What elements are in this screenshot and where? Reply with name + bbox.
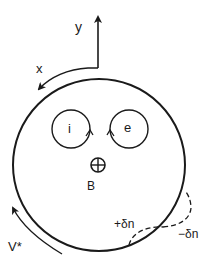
ion-orbit-circle [52,110,90,148]
diagram-svg [0,0,205,269]
magnetic-field-into-page-icon [91,158,105,172]
magnetic-field-label: B [87,180,95,192]
x-axis-arrow [39,68,98,89]
x-axis-label: x [36,62,43,75]
drift-velocity-label: V* [8,240,22,253]
y-axis-label: y [75,20,82,34]
ion-orbit-label: i [68,122,71,135]
electron-orbit-label: e [124,121,131,134]
minus-delta-n-label: −δn [178,228,198,240]
diagram-canvas: y x i e B V* +δn −δn [0,0,205,269]
minus-delta-n-perturbation [163,192,191,227]
plus-delta-n-label: +δn [114,218,134,230]
